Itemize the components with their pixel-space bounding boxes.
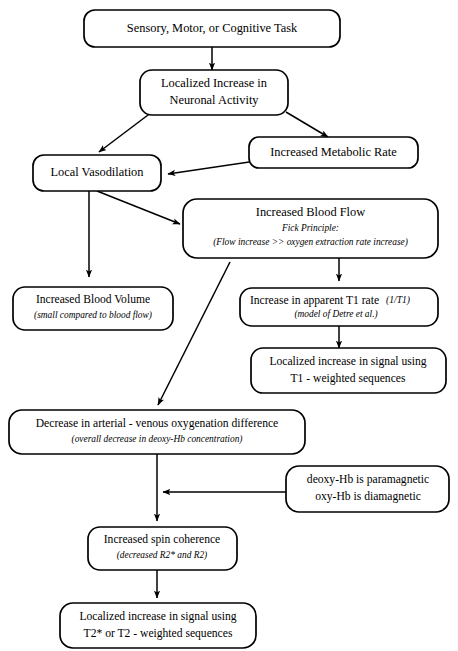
- node-t1-rate-label: Increase in apparent T1 rate: [250, 294, 379, 307]
- node-oxygenation-difference-sub: (overall decrease in deoxy-Hb concentrat…: [72, 434, 243, 445]
- node-local-vasodilation[interactable]: Local Vasodilation: [33, 155, 161, 191]
- node-magnetic-properties-label-1: deoxy-Hb is paramagnetic: [307, 473, 429, 486]
- node-spin-coherence-sub: (decreased R2* and R2): [117, 550, 208, 561]
- edge-metabolic-to-vasodilation: [168, 160, 263, 174]
- edge-neuronal-to-vasodilation: [99, 112, 152, 152]
- node-t1-signal[interactable]: Localized increase in signal using T1 - …: [251, 348, 446, 393]
- node-t1-rate[interactable]: Increase in apparent T1 rate (1/T1) (mod…: [240, 288, 438, 326]
- node-metabolic-rate-label: Increased Metabolic Rate: [270, 145, 397, 159]
- node-spin-coherence[interactable]: Increased spin coherence (decreased R2* …: [88, 527, 237, 570]
- node-spin-coherence-label: Increased spin coherence: [104, 533, 221, 546]
- node-blood-flow-sub-1: Fick Principle:: [281, 223, 339, 233]
- node-blood-volume-sub: (small compared to blood flow): [34, 310, 152, 321]
- edge-neuronal-to-metabolic: [286, 112, 328, 137]
- node-t2-signal-label-2: T2* or T2 - weighted sequences: [84, 627, 233, 640]
- edge-bloodflow-to-oxydiff: [158, 262, 230, 405]
- node-oxygenation-difference-label: Decrease in arterial - venous oxygenatio…: [36, 417, 279, 430]
- node-t1-rate-inline-italic: (1/T1): [386, 294, 410, 306]
- node-blood-flow-label: Increased Blood Flow: [256, 205, 365, 219]
- node-task[interactable]: Sensory, Motor, or Cognitive Task: [84, 10, 340, 47]
- node-task-label: Sensory, Motor, or Cognitive Task: [127, 21, 298, 35]
- node-blood-flow-sub-2: (Flow increase >> oxygen extraction rate…: [213, 237, 408, 248]
- node-t1-rate-label-group: Increase in apparent T1 rate (1/T1): [250, 294, 410, 307]
- node-local-vasodilation-label: Local Vasodilation: [50, 165, 143, 179]
- node-t2-signal-label-1: Localized increase in signal using: [79, 610, 236, 623]
- node-magnetic-properties[interactable]: deoxy-Hb is paramagnetic oxy-Hb is diama…: [286, 466, 449, 512]
- node-t1-signal-label-1: Localized increase in signal using: [269, 355, 426, 368]
- node-t1-signal-label-2: T1 - weighted sequences: [291, 372, 406, 385]
- node-t2-signal[interactable]: Localized increase in signal using T2* o…: [60, 603, 256, 648]
- node-blood-flow[interactable]: Increased Blood Flow Fick Principle: (Fl…: [183, 199, 438, 258]
- node-neuronal-activity-label-1: Localized Increase in: [161, 76, 267, 90]
- edge-vasodilation-to-bloodflow: [97, 191, 180, 224]
- flowchart-canvas: Sensory, Motor, or Cognitive Task Locali…: [0, 0, 458, 651]
- node-blood-volume[interactable]: Increased Blood Volume (small compared t…: [13, 287, 173, 330]
- node-blood-volume-label: Increased Blood Volume: [36, 293, 150, 306]
- node-neuronal-activity[interactable]: Localized Increase in Neuronal Activity: [140, 70, 288, 115]
- node-metabolic-rate[interactable]: Increased Metabolic Rate: [249, 137, 418, 168]
- node-neuronal-activity-label-2: Neuronal Activity: [169, 93, 259, 107]
- node-oxygenation-difference[interactable]: Decrease in arterial - venous oxygenatio…: [9, 410, 305, 454]
- node-magnetic-properties-label-2: oxy-Hb is diamagnetic: [315, 490, 421, 503]
- node-t1-rate-sub: (model of Detre et al.): [294, 309, 377, 320]
